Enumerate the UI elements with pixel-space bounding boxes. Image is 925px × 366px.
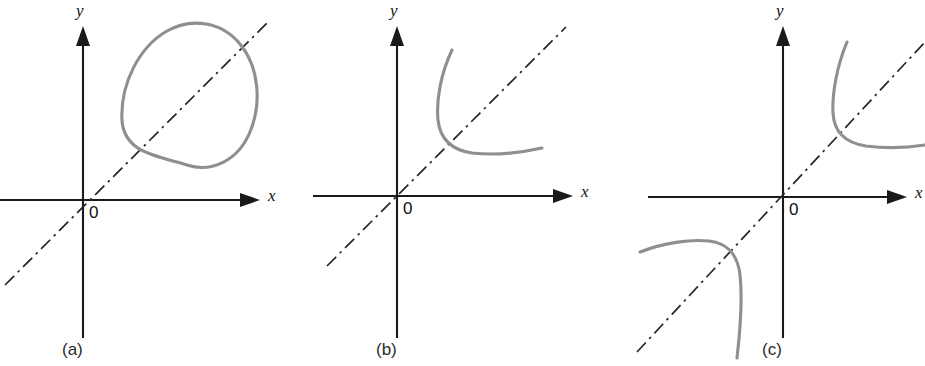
panel-c: x y 0 (c)	[637, 1, 925, 359]
panel-c-x-axis-label: x	[914, 183, 923, 202]
panel-b-x-axis-arrow-icon	[553, 189, 573, 203]
panel-b-origin-label: 0	[403, 199, 412, 218]
figure-canvas: x y 0 (a) x y 0 (b) x	[0, 0, 925, 366]
panel-a-y-axis-label: y	[74, 1, 84, 20]
panel-c-x-axis-arrow-icon	[887, 190, 907, 204]
three-panel-figure: x y 0 (a) x y 0 (b) x	[0, 0, 925, 366]
panel-c-y-axis-arrow-icon	[776, 26, 790, 46]
panel-c-origin-label: 0	[789, 200, 798, 219]
panel-a-origin-label: 0	[89, 203, 98, 222]
panel-c-hyperbola-lower-curve	[640, 240, 741, 358]
panel-b-caption: (b)	[376, 340, 397, 359]
panel-c-y-axis-label: y	[774, 1, 784, 20]
panel-b-x-axis-label: x	[580, 182, 589, 201]
panel-b-y-axis-arrow-icon	[390, 26, 404, 46]
panel-a-x-axis-arrow-icon	[240, 193, 260, 207]
panel-a-y-axis-arrow-icon	[76, 26, 90, 46]
panel-b: x y 0 (b)	[313, 1, 589, 359]
panel-a-ellipse-curve	[122, 23, 257, 167]
panel-c-caption: (c)	[762, 340, 782, 359]
panel-a-caption: (a)	[62, 340, 83, 359]
panel-b-y-axis-label: y	[388, 1, 398, 20]
panel-a-x-axis-label: x	[267, 186, 276, 205]
panel-a: x y 0 (a)	[0, 1, 276, 359]
